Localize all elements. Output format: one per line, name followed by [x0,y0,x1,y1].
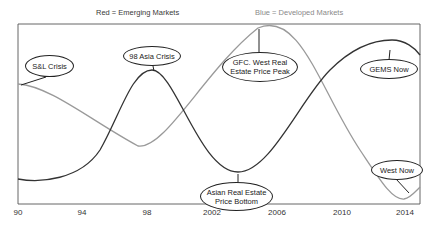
annotation-asian-re-line2: Price Bottom [215,197,258,206]
annotation-west-now: West Now [371,160,423,180]
x-tick-2014: 2014 [396,208,414,217]
annotation-98-asia-crisis: 98 Asia Crisis [123,46,181,66]
x-tick-2010: 2010 [333,208,351,217]
x-tick-90: 90 [14,208,23,217]
x-tick-2006: 2006 [268,208,286,217]
annotation-gfc-line2: Estate Price Peak [230,67,290,76]
annotation-sl-crisis: S&L Crisis [25,55,74,77]
pointer-west [396,179,409,193]
annotation-asian-real-estate-bottom: Asian Real Estate Price Bottom [200,182,273,211]
annotation-asian-re-line1: Asian Real Estate [207,188,267,197]
annotation-gems-now: GEMS Now [360,59,418,79]
developed-markets-line [18,25,420,199]
x-tick-98: 98 [143,208,152,217]
pointer-sl-crisis [21,77,46,85]
x-tick-2002: 2002 [203,208,221,217]
plot-frame [18,24,420,204]
annotation-gfc-line1: GFC. West Real [233,58,287,67]
x-tick-94: 94 [78,208,87,217]
annotation-gfc-peak: GFC. West Real Estate Price Peak [222,52,298,82]
